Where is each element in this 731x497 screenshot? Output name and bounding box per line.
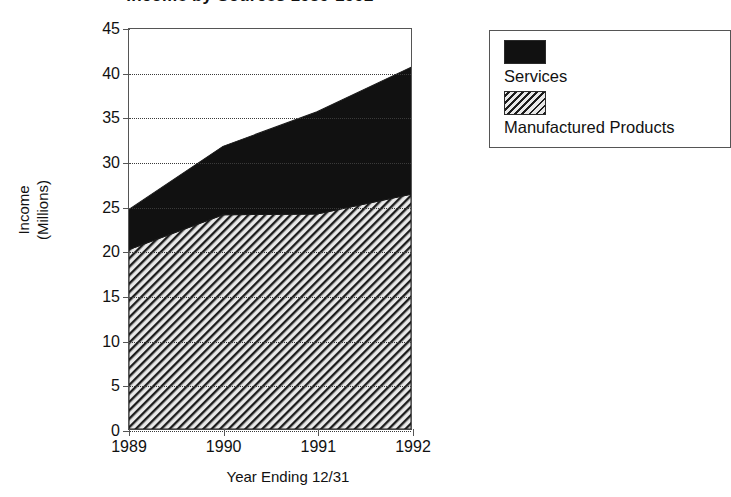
gridline	[129, 163, 411, 164]
stacked-area-plot	[129, 29, 411, 429]
y-tick-mark	[123, 297, 130, 298]
gridline	[129, 208, 411, 209]
y-tick-mark	[123, 74, 130, 75]
gridline	[129, 118, 411, 119]
gridline	[129, 74, 411, 75]
y-tick-mark	[123, 118, 130, 119]
x-tick-label: 1990	[206, 438, 242, 456]
chart-container: Income by Sources 1989-1992 Income (Mill…	[0, 0, 731, 497]
x-tick-mark	[413, 429, 414, 436]
chart-title: Income by Sources 1989-1992	[0, 0, 500, 6]
legend-label: Manufactured Products	[504, 115, 730, 140]
y-tick-label: 40	[102, 65, 120, 83]
y-tick-mark	[123, 29, 130, 30]
y-tick-label: 25	[102, 199, 120, 217]
gridline	[129, 431, 411, 432]
x-tick-label: 1992	[395, 438, 431, 456]
x-axis-title: Year Ending 12/31	[163, 468, 413, 485]
y-tick-label: 15	[102, 288, 120, 306]
x-tick-mark	[129, 429, 130, 436]
x-tick-mark	[224, 429, 225, 436]
y-tick-mark	[123, 342, 130, 343]
gridline	[129, 386, 411, 387]
gridline	[129, 252, 411, 253]
y-tick-mark	[123, 386, 130, 387]
plot-area: 051015202530354045 1989199019911992	[128, 28, 412, 430]
y-tick-mark	[123, 252, 130, 253]
x-tick-label: 1991	[301, 438, 337, 456]
y-tick-label: 45	[102, 20, 120, 38]
y-tick-label: 20	[102, 243, 120, 261]
gridline	[129, 342, 411, 343]
solid-black-swatch	[504, 40, 546, 64]
y-tick-mark	[123, 163, 130, 164]
y-tick-mark	[123, 208, 130, 209]
y-tick-label: 35	[102, 109, 120, 127]
diagonal-hatch-swatch	[504, 91, 546, 115]
legend-entry[interactable]: Services	[504, 40, 730, 89]
y-tick-label: 10	[102, 333, 120, 351]
y-axis-title: Income (Millions)	[14, 120, 54, 300]
y-tick-label: 5	[111, 377, 120, 395]
gridline	[129, 297, 411, 298]
x-tick-label: 1989	[111, 438, 147, 456]
chart-legend: ServicesManufactured Products	[489, 30, 731, 148]
legend-label: Services	[504, 64, 730, 89]
x-tick-mark	[318, 429, 319, 436]
legend-entry[interactable]: Manufactured Products	[504, 91, 730, 140]
y-tick-label: 30	[102, 154, 120, 172]
